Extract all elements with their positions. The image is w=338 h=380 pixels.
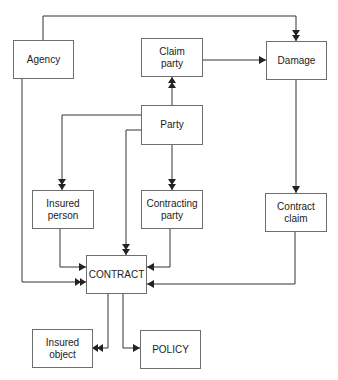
entity-party: Party — [141, 105, 203, 145]
entity-agency: Agency — [13, 40, 74, 79]
link-party-insuredperson — [62, 115, 141, 190]
entity-label: Damage — [278, 55, 316, 67]
entity-label: Contracting party — [146, 198, 197, 222]
link-contractclaim-contract — [147, 232, 295, 284]
entity-policy: POLICY — [140, 330, 201, 369]
link-party-contract — [126, 130, 141, 255]
entity-label: Insured person — [46, 198, 79, 222]
entity-label: Insured object — [46, 337, 79, 361]
entity-contract-claim: Contract claim — [265, 193, 327, 232]
entity-label: Contract claim — [277, 201, 315, 225]
entity-contracting-party: Contracting party — [141, 190, 203, 229]
entity-label: CONTRACT — [89, 269, 145, 281]
entity-insured-person: Insured person — [32, 190, 94, 229]
entity-label: POLICY — [152, 344, 189, 356]
entity-claim-party: Claim party — [141, 38, 203, 77]
link-contract-insuredobject — [92, 294, 108, 348]
entity-insured-object: Insured object — [32, 329, 93, 368]
entity-damage: Damage — [266, 41, 327, 80]
link-agency-contract — [22, 78, 86, 282]
entity-contract: CONTRACT — [86, 255, 147, 294]
entity-label: Claim party — [159, 46, 185, 70]
link-insuredperson-contract — [60, 229, 86, 267]
entity-label: Agency — [27, 54, 60, 66]
entity-label: Party — [160, 119, 183, 131]
link-contract-policy — [123, 294, 140, 348]
link-contractingparty-contract — [147, 229, 170, 267]
